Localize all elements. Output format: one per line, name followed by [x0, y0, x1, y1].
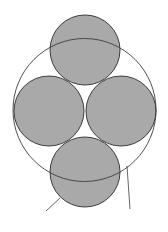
small-mirror-right — [86, 76, 156, 146]
large-mirror-label: 5-METER MIRROR — [100, 207, 157, 232]
leader-line-large-mirror — [127, 166, 130, 209]
mirror-comparison-diagram — [0, 0, 168, 232]
small-mirror-top — [50, 15, 120, 85]
small-mirror-bottom — [50, 137, 120, 207]
small-mirror-left — [14, 76, 84, 146]
small-mirrors — [14, 15, 156, 207]
small-mirror-label: 2.5-METER MIRROR — [13, 207, 80, 232]
